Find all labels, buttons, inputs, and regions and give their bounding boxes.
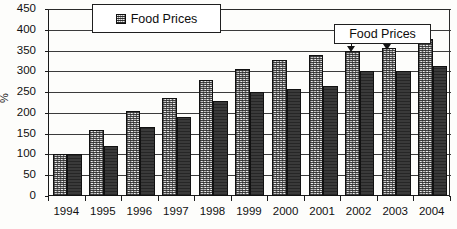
x-tick-label-1999: 1999 — [231, 205, 268, 218]
y-tick-label-450: 450 — [4, 3, 36, 14]
bar-1999-series0 — [235, 69, 250, 196]
x-tick-label-1995: 1995 — [85, 205, 122, 218]
arrow-head — [347, 46, 355, 52]
bar-2001-series0 — [309, 55, 324, 196]
y-tickmark-200 — [45, 113, 49, 114]
callout-label: Food Prices — [349, 27, 416, 41]
bar-1998-series1 — [213, 101, 228, 196]
bar-1998-series0 — [199, 80, 214, 196]
x-tickmark-1997 — [158, 196, 159, 201]
y-tickmark-100 — [45, 154, 49, 155]
y-tick-label-350: 350 — [4, 45, 36, 56]
bar-group-1997 — [159, 9, 196, 196]
bar-group-1995 — [86, 9, 123, 196]
bar-2001-series1 — [323, 86, 338, 196]
y-tickmark-50 — [45, 175, 49, 176]
y-axis-title: % — [0, 93, 10, 103]
x-tick-label-1998: 1998 — [194, 205, 231, 218]
x-tickmark-2004 — [413, 196, 414, 201]
x-tick-label-1994: 1994 — [48, 205, 85, 218]
bar-2004-series0 — [418, 39, 433, 196]
legend-label: Food Prices — [131, 12, 198, 26]
bar-group-2000 — [268, 9, 305, 196]
arrow-head — [383, 44, 391, 50]
callout-arrow-2003 — [383, 44, 392, 50]
x-tick-label-2004: 2004 — [413, 205, 450, 218]
y-tickmark-400 — [45, 30, 49, 31]
bar-1995-series0 — [89, 130, 104, 196]
x-tickmark-1995 — [85, 196, 86, 201]
x-tickmark-2002 — [340, 196, 341, 201]
x-tickmark-1994 — [48, 196, 49, 201]
y-tick-label-150: 150 — [4, 128, 36, 139]
bar-2004-series1 — [433, 66, 448, 196]
bar-1997-series1 — [177, 117, 192, 196]
callout-box: Food Prices — [334, 24, 431, 44]
y-tick-label-300: 300 — [4, 65, 36, 76]
bar-group-1994 — [49, 9, 86, 196]
x-tickmark-end — [450, 196, 451, 201]
y-tickmark-350 — [45, 51, 49, 52]
y-tick-label-200: 200 — [4, 107, 36, 118]
x-tickmark-2003 — [377, 196, 378, 201]
bar-group-1996 — [122, 9, 159, 196]
bar-group-1998 — [195, 9, 232, 196]
bar-2000-series0 — [272, 60, 287, 196]
legend-swatch-icon — [116, 14, 126, 24]
x-tickmark-1999 — [231, 196, 232, 201]
y-tick-label-0: 0 — [4, 190, 36, 201]
y-tick-label-400: 400 — [4, 24, 36, 35]
x-tick-label-2003: 2003 — [377, 205, 414, 218]
bar-1994-series0 — [53, 154, 68, 196]
bar-2003-series1 — [396, 71, 411, 196]
x-tick-label-2001: 2001 — [304, 205, 341, 218]
y-axis-tick-labels: 450400350300250200150100500 — [0, 0, 44, 229]
food-prices-bar-chart: 450400350300250200150100500 % 1994199519… — [0, 0, 457, 229]
x-tick-label-1997: 1997 — [158, 205, 195, 218]
x-tickmark-1996 — [121, 196, 122, 201]
bar-1999-series1 — [250, 92, 265, 196]
y-tickmark-300 — [45, 71, 49, 72]
chart-legend: Food Prices — [92, 4, 221, 33]
bar-1996-series0 — [126, 111, 141, 196]
x-tickmark-2001 — [304, 196, 305, 201]
x-tick-label-2002: 2002 — [340, 205, 377, 218]
bar-1997-series0 — [162, 98, 177, 196]
bar-2003-series0 — [382, 48, 397, 196]
bar-2002-series1 — [360, 71, 375, 196]
callout-arrow-2002 — [347, 44, 356, 53]
bar-2002-series0 — [345, 51, 360, 196]
x-tick-label-2000: 2000 — [267, 205, 304, 218]
bar-1994-series1 — [67, 154, 82, 196]
x-tick-label-1996: 1996 — [121, 205, 158, 218]
x-axis-tick-labels: 1994199519961997199819992000200120022003… — [48, 205, 450, 225]
x-tickmark-1998 — [194, 196, 195, 201]
y-tick-label-50: 50 — [4, 169, 36, 180]
plot-frame-right — [449, 9, 450, 197]
x-tickmark-2000 — [267, 196, 268, 201]
y-tickmark-150 — [45, 134, 49, 135]
bar-1996-series1 — [140, 127, 155, 196]
y-tick-label-100: 100 — [4, 148, 36, 159]
bar-2000-series1 — [287, 89, 302, 196]
bar-group-1999 — [232, 9, 269, 196]
y-tickmark-250 — [45, 92, 49, 93]
bar-1995-series1 — [104, 146, 119, 196]
